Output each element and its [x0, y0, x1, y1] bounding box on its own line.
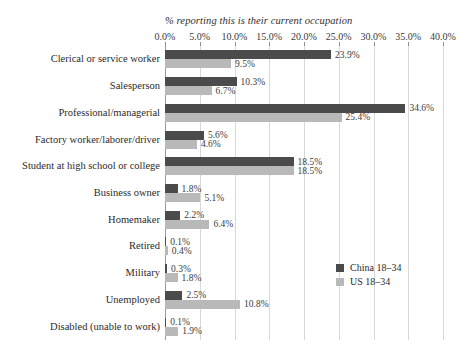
bar-value-label: 5.1% — [204, 194, 224, 203]
x-tickmark — [304, 42, 305, 46]
category-label: Business owner — [0, 187, 160, 199]
bar-value-label: 4.6% — [201, 140, 221, 149]
bar-value-label: 6.7% — [216, 87, 236, 96]
bar-value-label: 9.5% — [235, 60, 255, 69]
x-tickmark — [165, 42, 166, 46]
x-tick-label: 40.0% — [430, 31, 456, 42]
x-tick-label: 30.0% — [361, 31, 387, 42]
bar — [165, 59, 231, 68]
legend-swatch-icon — [336, 278, 344, 286]
occupation-bar-chart: % reporting this is their current occupa… — [0, 0, 459, 358]
category-label: Salesperson — [0, 80, 160, 92]
bar-value-label: 1.9% — [182, 327, 202, 336]
bar — [165, 327, 178, 336]
bar — [165, 291, 182, 300]
category-label: Retired — [0, 240, 160, 252]
bar — [165, 113, 342, 122]
bar — [165, 220, 209, 229]
bar — [165, 131, 204, 140]
y-axis-category-labels: Clerical or service workerSalespersonPro… — [0, 46, 160, 340]
plot-area: 23.9%9.5%10.3%6.7%34.6%25.4%5.6%4.6%18.5… — [165, 46, 443, 340]
bar — [165, 157, 294, 166]
bar — [165, 211, 180, 220]
legend-item: US 18–34 — [336, 275, 401, 288]
bar — [165, 86, 212, 95]
category-label: Unemployed — [0, 294, 160, 306]
bar — [165, 300, 240, 309]
x-tick-label: 35.0% — [395, 31, 421, 42]
category-label: Professional/managerial — [0, 107, 160, 119]
bar — [165, 77, 237, 86]
x-tickmark — [339, 42, 340, 46]
axis-title: % reporting this is their current occupa… — [165, 15, 352, 26]
bar — [165, 273, 178, 282]
gridline — [408, 46, 409, 340]
x-tick-label: 0.0% — [155, 31, 176, 42]
bar-value-label: 18.5% — [298, 167, 323, 176]
gridline — [339, 46, 340, 340]
x-axis-tick-labels: 0.0%5.0%10.0%15.0%20.0%25.0%30.0%35.0%40… — [0, 31, 459, 44]
x-tick-label: 20.0% — [291, 31, 317, 42]
bar — [165, 237, 166, 246]
x-tickmark — [269, 42, 270, 46]
bar-value-label: 10.3% — [241, 78, 266, 87]
bar — [165, 50, 331, 59]
legend-label: China 18–34 — [350, 262, 401, 273]
bar-value-label: 10.8% — [244, 300, 269, 309]
x-tickmark — [200, 42, 201, 46]
gridline — [374, 46, 375, 340]
x-tickmark — [408, 42, 409, 46]
category-label: Military — [0, 267, 160, 279]
bar — [165, 246, 168, 255]
category-label: Clerical or service worker — [0, 53, 160, 65]
chart-legend: China 18–34US 18–34 — [336, 261, 401, 289]
category-label: Factory worker/laborer/driver — [0, 134, 160, 146]
category-label: Disabled (unable to work) — [0, 321, 160, 333]
x-tick-label: 10.0% — [222, 31, 248, 42]
bar-value-label: 6.4% — [213, 220, 233, 229]
gridline — [304, 46, 305, 340]
bar — [165, 318, 166, 327]
bar-value-label: 1.8% — [182, 274, 202, 283]
x-tick-label: 5.0% — [189, 31, 210, 42]
legend-swatch-icon — [336, 264, 344, 272]
legend-item: China 18–34 — [336, 261, 401, 274]
bar — [165, 166, 294, 175]
x-tickmark — [374, 42, 375, 46]
bar-value-label: 25.4% — [346, 113, 371, 122]
category-label: Student at high school or college — [0, 160, 160, 172]
bar-value-label: 34.6% — [409, 104, 434, 113]
x-tickmark — [443, 42, 444, 46]
bar-value-label: 23.9% — [335, 51, 360, 60]
bar-value-label: 0.4% — [172, 247, 192, 256]
category-label: Homemaker — [0, 214, 160, 226]
bar — [165, 264, 167, 273]
x-tick-label: 15.0% — [256, 31, 282, 42]
gridline — [443, 46, 444, 340]
bar — [165, 193, 200, 202]
bar — [165, 184, 178, 193]
bar — [165, 140, 197, 149]
x-tick-label: 25.0% — [326, 31, 352, 42]
legend-label: US 18–34 — [350, 276, 390, 287]
gridline — [269, 46, 270, 340]
x-tickmark — [235, 42, 236, 46]
